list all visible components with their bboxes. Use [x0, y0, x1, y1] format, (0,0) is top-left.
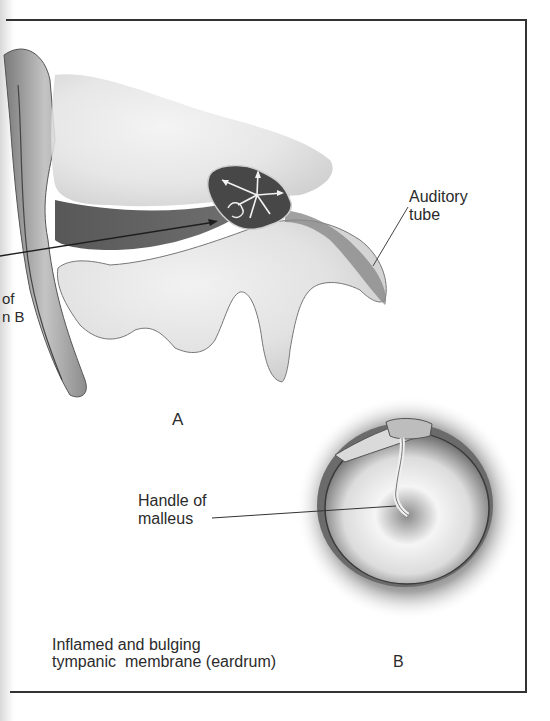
cropped-callout-line2: n B — [2, 308, 25, 325]
handle-of-malleus-label-line2: malleus — [138, 510, 193, 527]
panel-a-label: A — [172, 411, 183, 428]
handle-of-malleus-label: Handle of — [138, 492, 207, 509]
auditory-tube-label: Auditory — [409, 188, 468, 205]
panel-b-label: B — [393, 653, 404, 670]
tympanic-membrane — [296, 396, 520, 620]
auditory-tube-label-line2: tube — [409, 206, 440, 223]
auditory-tube-leader — [373, 207, 408, 266]
cropped-callout-line1: of — [2, 290, 15, 307]
ear-illustration — [0, 0, 550, 721]
panel-b-caption-line2: tympanic membrane (eardrum) — [52, 653, 276, 670]
temporal-bone-upper — [51, 74, 332, 206]
panel-b-caption-line1: Inflamed and bulging — [52, 636, 201, 653]
